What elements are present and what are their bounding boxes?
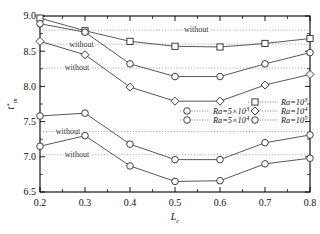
data-point-4-5 (262, 161, 269, 168)
data-point-2-2 (126, 83, 134, 91)
y-axis-label: t*m (5, 98, 18, 109)
legend-label-1: Ra=5×103 (212, 105, 250, 116)
y-tick-label: 8.5 (24, 46, 37, 57)
reference-label-without: without (56, 127, 81, 136)
reference-label-without: without (65, 63, 90, 72)
legend-marker-0 (252, 99, 258, 105)
data-point-0-5 (262, 40, 268, 46)
x-tick-label: 0.5 (169, 197, 182, 208)
data-point-4-3 (172, 178, 179, 185)
data-point-3-4 (217, 156, 224, 163)
data-point-4-0 (37, 143, 44, 150)
reference-label-without: without (69, 40, 94, 49)
data-point-2-4 (216, 97, 224, 105)
data-point-1-2 (127, 61, 134, 68)
x-tick-label: 0.2 (34, 197, 47, 208)
data-point-0-4 (217, 44, 223, 50)
data-point-0-6 (307, 35, 313, 41)
data-point-1-6 (307, 49, 314, 56)
data-point-3-3 (172, 156, 179, 163)
data-point-3-1 (82, 110, 89, 117)
data-point-2-3 (171, 97, 179, 105)
x-tick-label: 0.4 (124, 197, 137, 208)
legend-marker-4 (252, 117, 259, 124)
legend-marker-3 (184, 117, 191, 124)
data-point-2-1 (81, 51, 89, 59)
data-point-4-2 (127, 163, 134, 170)
data-point-2-0 (36, 37, 44, 45)
y-tick-label: 9.0 (24, 10, 37, 21)
data-point-3-6 (307, 132, 314, 139)
data-point-0-2 (127, 38, 133, 44)
legend-label-4: Ra=105 (280, 114, 308, 125)
x-axis-label: Lc (170, 211, 180, 224)
data-point-1-4 (217, 73, 224, 80)
data-point-1-3 (172, 73, 179, 80)
data-point-2-5 (261, 81, 269, 89)
line-chart: withoutwithoutwithoutwithoutwithout6.57.… (0, 0, 320, 234)
data-point-1-0 (37, 20, 44, 27)
x-tick-label: 0.6 (214, 197, 227, 208)
chart-figure: withoutwithoutwithoutwithoutwithout6.57.… (0, 0, 320, 234)
data-point-4-4 (217, 177, 224, 184)
legend-marker-2 (251, 107, 259, 115)
data-point-2-6 (306, 70, 314, 78)
reference-label-without: without (65, 150, 90, 159)
data-point-0-3 (172, 43, 178, 49)
x-tick-label: 0.8 (304, 197, 317, 208)
data-point-3-2 (127, 141, 134, 148)
y-tick-label: 6.5 (24, 186, 37, 197)
data-point-1-1 (82, 29, 89, 36)
legend-label-3: Ra=5×104 (212, 114, 250, 125)
legend-marker-1 (184, 108, 191, 115)
y-tick-label: 8.0 (24, 81, 37, 92)
y-tick-label: 7.5 (24, 116, 37, 127)
y-tick-label: 7.0 (24, 151, 37, 162)
reference-label-without: without (184, 25, 209, 34)
data-point-3-0 (37, 113, 44, 120)
x-tick-label: 0.7 (259, 197, 272, 208)
data-point-3-5 (262, 139, 269, 146)
data-point-4-1 (82, 132, 89, 139)
data-point-4-6 (307, 155, 314, 162)
x-tick-label: 0.3 (79, 197, 92, 208)
data-point-1-5 (262, 61, 269, 68)
